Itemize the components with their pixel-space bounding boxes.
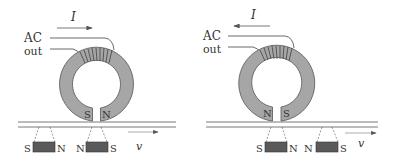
tape-magnet-2: N S bbox=[304, 127, 347, 154]
head-pole-left: N bbox=[263, 108, 272, 119]
out-label: out bbox=[203, 43, 222, 56]
tape-magnet-2: N S bbox=[76, 127, 117, 154]
svg-text:N: N bbox=[57, 143, 66, 154]
current-label: I bbox=[70, 10, 76, 24]
ac-label: AC bbox=[23, 31, 42, 45]
ac-label: AC bbox=[202, 29, 221, 43]
svg-text:N: N bbox=[289, 143, 298, 154]
right-panel: I AC out N S S N N bbox=[202, 8, 378, 154]
velocity-label: v bbox=[358, 137, 365, 150]
velocity-label: v bbox=[136, 140, 143, 153]
svg-text:S: S bbox=[110, 143, 117, 154]
current-label: I bbox=[250, 8, 256, 22]
svg-text:S: S bbox=[256, 143, 263, 154]
svg-text:N: N bbox=[304, 143, 313, 154]
svg-text:N: N bbox=[76, 143, 85, 154]
out-label: out bbox=[24, 45, 43, 58]
magnetic-recording-diagram: I AC out S N S N bbox=[0, 0, 395, 161]
svg-text:S: S bbox=[24, 143, 31, 154]
tape-magnet-1: S N bbox=[24, 127, 66, 154]
svg-text:S: S bbox=[340, 143, 347, 154]
tape-magnet-1: S N bbox=[256, 127, 298, 154]
head-pole-right: N bbox=[102, 109, 111, 120]
head-pole-right: S bbox=[283, 108, 290, 119]
left-panel: I AC out S N S N bbox=[18, 10, 176, 154]
head-pole-left: S bbox=[84, 109, 91, 120]
